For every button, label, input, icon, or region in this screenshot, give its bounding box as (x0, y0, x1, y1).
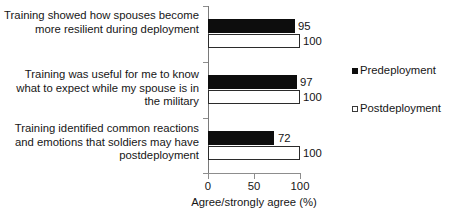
category-axis-labels: Training showed how spouses become more … (0, 0, 203, 180)
filled-square-icon (352, 68, 358, 74)
bar-predeployment-2 (208, 131, 274, 145)
legend-label-predeployment: Predeployment (360, 64, 436, 77)
category-label-1: Training was useful for me to know what … (0, 68, 199, 109)
hollow-square-icon (352, 106, 358, 112)
bar-value-postdeployment-0: 100 (303, 34, 322, 48)
bar-predeployment-1 (208, 75, 297, 89)
legend-label-postdeployment: Postdeployment (360, 102, 441, 115)
bar-predeployment-0 (208, 19, 295, 33)
bar-value-predeployment-0: 95 (298, 19, 311, 33)
x-tick-label-2: 100 (280, 180, 320, 193)
bar-value-predeployment-1: 97 (300, 75, 313, 89)
bar-value-postdeployment-1: 100 (303, 90, 322, 104)
category-label-0: Training showed how spouses become more … (0, 9, 199, 36)
x-tick-label-1: 50 (234, 180, 274, 193)
bar-chart: Training showed how spouses become more … (0, 0, 459, 215)
plot-area (208, 6, 300, 174)
bar-postdeployment-1 (208, 90, 300, 104)
bar-postdeployment-2 (208, 146, 300, 160)
x-axis-tick (300, 174, 301, 179)
x-axis-title: Agree/strongly agree (%) (184, 196, 324, 209)
x-axis-tick (254, 174, 255, 179)
legend-item-predeployment: Predeployment (352, 64, 436, 77)
legend-item-postdeployment: Postdeployment (352, 102, 441, 115)
bar-value-predeployment-2: 72 (278, 131, 291, 145)
category-label-2: Training identified common reactions and… (0, 122, 199, 163)
x-axis-tick (208, 174, 209, 179)
bar-postdeployment-0 (208, 34, 300, 48)
x-tick-label-0: 0 (188, 180, 228, 193)
bar-value-postdeployment-2: 100 (303, 146, 322, 160)
